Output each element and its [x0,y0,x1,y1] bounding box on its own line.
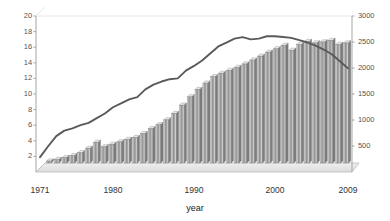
combo-chart: 2468101214161820 50010001500200025003000… [0,0,390,221]
right-axis-tick-label: 3000 [358,12,374,20]
x-axis-tick-label: 1980 [93,185,133,195]
x-axis-tick-label: 1971 [20,185,60,195]
right-axis-tick-label: 1000 [358,116,374,124]
left-axis-tick-label: 20 [8,12,32,20]
right-axis-tick-label: 2500 [358,38,374,46]
x-axis-tick-label: 1990 [174,185,214,195]
left-axis-tick-label: 6 [8,121,32,129]
left-axis-tick-label: 2 [8,152,32,160]
right-axis-tick-label: 500 [358,142,370,150]
left-axis-tick-label: 10 [8,90,32,98]
left-axis-tick-label: 8 [8,106,32,114]
left-axis-tick-label: 4 [8,137,32,145]
chart-floor-3d [36,163,359,172]
left-axis-tick-label: 16 [8,43,32,51]
left-axis-tick-label: 12 [8,74,32,82]
gridlines [36,7,352,16]
x-axis-title: year [0,203,390,213]
left-axis-tick-label: 14 [8,59,32,67]
left-axis-tick-label: 18 [8,28,32,36]
x-axis-tick-label: 2009 [328,185,368,195]
right-axis-tick-label: 2000 [358,64,374,72]
x-axis-tick-label: 2000 [255,185,295,195]
right-axis-tick-label: 1500 [358,90,374,98]
